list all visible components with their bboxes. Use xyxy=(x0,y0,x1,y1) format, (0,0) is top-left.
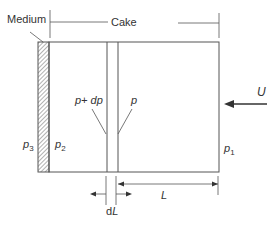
dl-label: dL xyxy=(106,206,118,217)
medium-label: Medium xyxy=(7,14,46,25)
p1-label: p1 xyxy=(224,143,235,157)
u-arrow-head xyxy=(224,100,234,108)
dl-arrow-left-head xyxy=(90,192,96,197)
p-plus-dp-label: p+ dp xyxy=(75,95,103,106)
filtration-diagram xyxy=(0,0,280,227)
medium-leader xyxy=(30,32,43,42)
p-pointer xyxy=(118,109,132,134)
filter-medium xyxy=(38,42,49,172)
u-velocity-label: U xyxy=(257,86,266,98)
cake-region xyxy=(49,42,219,172)
p-plus-dp-pointer xyxy=(92,109,106,134)
l-arrow-left-head xyxy=(118,182,124,187)
cake-label: Cake xyxy=(111,17,137,28)
l-label: L xyxy=(161,190,167,201)
l-arrow-right-head xyxy=(212,182,218,187)
dl-arrow-right-head xyxy=(126,192,132,197)
p3-label: p3 xyxy=(23,139,34,153)
p2-label: p2 xyxy=(55,139,66,153)
p-label: p xyxy=(131,95,137,106)
